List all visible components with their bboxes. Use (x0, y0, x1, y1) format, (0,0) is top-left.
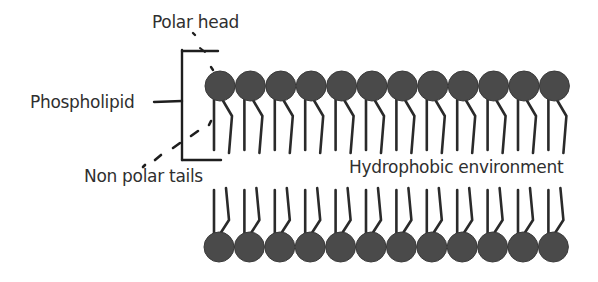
tail-kinked (344, 99, 354, 153)
polar-head-circle (418, 71, 448, 101)
phospholipid-molecule (509, 71, 539, 153)
phospholipid-molecule (447, 188, 477, 262)
phospholipid-label: Phospholipid (30, 92, 134, 112)
polar-head-circle (356, 232, 386, 262)
lipid-bilayer-diagram: Polar head Phospholipid Non polar tails … (0, 0, 598, 282)
tail-kinked (496, 99, 506, 153)
polar-head-circle (327, 71, 357, 101)
tail-kinked (526, 99, 536, 153)
polar-head-circle (326, 232, 356, 262)
polar-head-circle (205, 71, 235, 101)
phospholipid-molecule (479, 71, 509, 153)
polar-head-circle (204, 232, 234, 262)
tail-kinked (433, 188, 442, 234)
tail-kinked (222, 99, 232, 153)
polar-head-circle (234, 232, 264, 262)
tail-kinked (250, 188, 259, 234)
phospholipid-molecule (234, 188, 264, 262)
tail-kinked (435, 99, 445, 153)
phospholipid-molecule (265, 188, 295, 262)
polar-head-circle (295, 232, 325, 262)
phospholipid-molecule (387, 71, 417, 153)
polar-head-circle (538, 232, 568, 262)
tail-kinked (524, 188, 533, 234)
polar-head-circle (447, 232, 477, 262)
polar-head-circle (387, 71, 417, 101)
phospholipid-molecule (266, 71, 296, 153)
phospholipid-molecule (205, 71, 235, 153)
phospholipid-molecule (326, 188, 356, 262)
phospholipid-bracket (154, 48, 221, 160)
polar-head-circle (479, 71, 509, 101)
polar-head-circle (266, 71, 296, 101)
phospholipid-molecule (538, 188, 568, 262)
top-lipid-layer (205, 71, 569, 153)
phospholipid-molecule (508, 188, 538, 262)
phospholipid-molecule (418, 71, 448, 153)
phospholipid-molecule (539, 71, 569, 153)
polar-head-circle (539, 71, 569, 101)
phospholipid-molecule (478, 188, 508, 262)
polar-head-circle (478, 232, 508, 262)
tail-kinked (342, 188, 351, 234)
tail-kinked (311, 188, 320, 234)
hydrophobic-environment-label: Hydrophobic environment (349, 157, 563, 177)
tail-kinked (465, 99, 475, 153)
polar-head-circle (265, 232, 295, 262)
phospholipid-molecule (357, 71, 387, 153)
tail-kinked (554, 188, 563, 234)
tail-kinked (556, 99, 566, 153)
phospholipid-molecule (386, 188, 416, 262)
polar-head-circle (296, 71, 326, 101)
tail-kinked (281, 188, 290, 234)
non-polar-tails-label: Non polar tails (84, 166, 203, 186)
polar-head-circle (386, 232, 416, 262)
polar-head-circle (448, 71, 478, 101)
tail-kinked (404, 99, 414, 153)
tail-kinked (220, 188, 229, 234)
phospholipid-molecule (448, 71, 478, 153)
polar-head-circle (417, 232, 447, 262)
tail-kinked (402, 188, 411, 234)
phospholipid-molecule (296, 71, 326, 153)
polar-head-label: Polar head (152, 12, 239, 32)
tail-kinked (374, 99, 384, 153)
tail-kinked (283, 99, 293, 153)
phospholipid-molecule (235, 71, 265, 153)
bilayer-graphic (0, 0, 598, 282)
polar-head-circle (508, 232, 538, 262)
polar-head-circle (357, 71, 387, 101)
polar-head-circle (235, 71, 265, 101)
phospholipid-molecule (417, 188, 447, 262)
phospholipid-molecule (356, 188, 386, 262)
tail-kinked (313, 99, 323, 153)
phospholipid-molecule (327, 71, 357, 153)
tail-kinked (494, 188, 503, 234)
phospholipid-molecule (295, 188, 325, 262)
polar-head-circle (509, 71, 539, 101)
tail-kinked (372, 188, 381, 234)
bottom-lipid-layer (204, 188, 568, 262)
tail-kinked (463, 188, 472, 234)
phospholipid-molecule (204, 188, 234, 262)
tail-kinked (252, 99, 262, 153)
